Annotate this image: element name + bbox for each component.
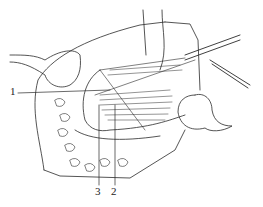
label-2: 2 [111, 186, 117, 197]
label-1: 1 [10, 86, 16, 97]
top-structure [143, 10, 164, 70]
instrument-2 [210, 60, 250, 88]
lower-contour [44, 130, 185, 178]
muscle-fibers [100, 65, 182, 120]
leader-line-1 [18, 90, 110, 93]
instrument-1 [185, 35, 240, 60]
right-retractor [178, 94, 232, 130]
left-retractor [10, 51, 81, 87]
loop [83, 70, 185, 131]
illustration-drawing [0, 0, 263, 207]
surgical-illustration: 1 2 3 [0, 0, 263, 207]
label-3: 3 [95, 186, 101, 197]
